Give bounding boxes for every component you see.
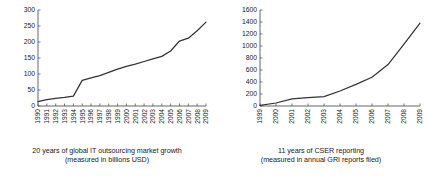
caption-line-2: (measured in billions USD) (0, 155, 214, 164)
x-axis-tick-label: 1996 (87, 109, 94, 124)
x-axis-tick-label: 2002 (141, 109, 148, 124)
x-axis-tick-label: 2007 (185, 109, 192, 124)
data-series-line (260, 23, 420, 105)
y-axis-tick-label: 800 (246, 54, 258, 61)
x-axis-tick-label: 2004 (336, 109, 343, 124)
figure-two-line-charts: 0501001502002503001990199119921993199419… (0, 0, 428, 179)
x-axis-tick-label: 2008 (400, 109, 407, 124)
x-axis-tick-label: 2000 (272, 109, 279, 124)
y-axis-tick-label: 200 (246, 90, 258, 97)
x-axis-tick-label: 2009 (202, 109, 209, 124)
caption-line-1: 20 years of global IT outsourcing market… (0, 146, 214, 155)
x-axis-tick-label: 2006 (368, 109, 375, 124)
plot-area-cser-reporting: 0200400600800100012001400160019992000200… (214, 0, 428, 140)
data-series-line (38, 22, 206, 101)
chart-panel-it-outsourcing: 0501001502002503001990199119921993199419… (0, 0, 214, 179)
x-axis-tick-label: 2005 (352, 109, 359, 124)
y-axis-tick-label: 400 (246, 78, 258, 85)
x-axis-tick-label: 2003 (149, 109, 156, 124)
y-axis-tick-label: 1400 (242, 18, 257, 25)
x-axis-tick-label: 1997 (96, 109, 103, 124)
x-axis-tick-label: 2000 (123, 109, 130, 124)
x-axis-tick-label: 1991 (43, 109, 50, 124)
chart-panel-cser-reporting: 0200400600800100012001400160019992000200… (214, 0, 428, 179)
x-axis-tick-label: 1993 (61, 109, 68, 124)
y-axis-tick-label: 200 (24, 38, 36, 45)
y-axis-tick-label: 600 (246, 66, 258, 73)
y-axis-tick-label: 1600 (242, 6, 257, 13)
y-axis-tick-label: 150 (24, 54, 36, 61)
x-axis-tick-label: 1992 (52, 109, 59, 124)
x-axis-tick-label: 1995 (79, 109, 86, 124)
y-axis-tick-label: 1200 (242, 30, 257, 37)
y-axis-tick-label: 1000 (242, 42, 257, 49)
y-axis-tick-label: 300 (24, 6, 36, 13)
y-axis-tick-label: 250 (24, 22, 36, 29)
y-axis-tick-label: 100 (24, 70, 36, 77)
x-axis-tick-label: 2002 (304, 109, 311, 124)
line-chart-it-outsourcing: 0501001502002503001990199119921993199419… (0, 0, 214, 140)
caption-cser-reporting: 11 years of CSER reporting (measured in … (214, 146, 428, 165)
y-axis-tick-label: 50 (27, 86, 35, 93)
x-axis-tick-label: 2004 (158, 109, 165, 124)
caption-line-2: (measured in annual GRI reports filed) (214, 155, 428, 164)
x-axis-tick-label: 1990 (34, 109, 41, 124)
line-chart-cser-reporting: 0200400600800100012001400160019992000200… (214, 0, 428, 140)
x-axis-tick-label: 1999 (114, 109, 121, 124)
caption-it-outsourcing: 20 years of global IT outsourcing market… (0, 146, 214, 165)
x-axis-tick-label: 2001 (288, 109, 295, 124)
x-axis-tick-label: 2005 (167, 109, 174, 124)
x-axis-tick-label: 2009 (416, 109, 423, 124)
x-axis-tick-label: 2007 (384, 109, 391, 124)
x-axis-tick-label: 1998 (105, 109, 112, 124)
x-axis-tick-label: 1999 (256, 109, 263, 124)
plot-area-it-outsourcing: 0501001502002503001990199119921993199419… (0, 0, 214, 140)
y-axis-tick-label: 0 (253, 102, 257, 109)
x-axis-tick-label: 2001 (132, 109, 139, 124)
x-axis-tick-label: 2006 (176, 109, 183, 124)
x-axis-tick-label: 2003 (320, 109, 327, 124)
caption-line-1: 11 years of CSER reporting (214, 146, 428, 155)
y-axis-tick-label: 0 (31, 102, 35, 109)
x-axis-tick-label: 1994 (70, 109, 77, 124)
x-axis-tick-label: 2008 (194, 109, 201, 124)
